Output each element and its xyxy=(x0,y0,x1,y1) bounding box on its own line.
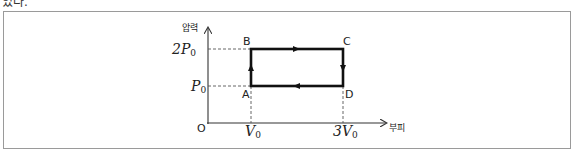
cycle-path-abcd xyxy=(251,49,343,86)
y-axis-label: 압력 xyxy=(182,22,198,33)
point-label-d: D xyxy=(345,88,353,101)
arrow-left-icon xyxy=(293,83,300,89)
point-label-a: A xyxy=(242,88,250,101)
arrow-right-icon xyxy=(293,46,300,52)
y-tick-2p0: 2P0 xyxy=(171,41,196,58)
arrow-down-icon xyxy=(340,65,346,72)
x-axis-label: 부피 xyxy=(389,123,405,133)
x-tick-v0: V0 xyxy=(245,123,261,140)
y-tick-p0: P0 xyxy=(190,78,206,95)
x-tick-3v0: 3V0 xyxy=(333,123,358,140)
point-label-c: C xyxy=(343,35,351,48)
pv-diagram: 압력 부피 O 2P0 P0 V0 3V0 B C A D xyxy=(0,0,575,154)
origin-label: O xyxy=(197,122,206,135)
direction-arrows xyxy=(248,46,346,89)
point-label-b: B xyxy=(243,35,251,48)
arrow-up-icon xyxy=(248,64,254,71)
